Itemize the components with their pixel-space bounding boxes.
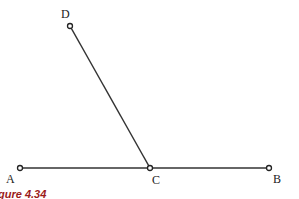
point-d-label: D — [61, 7, 70, 21]
point-c-marker — [148, 166, 153, 171]
point-a-label: A — [6, 172, 15, 186]
point-b-label: B — [273, 172, 281, 186]
segment-dc — [70, 26, 150, 168]
point-b-marker — [267, 166, 272, 171]
point-d-marker — [68, 24, 73, 29]
point-a-marker — [18, 166, 23, 171]
point-c-label: C — [152, 173, 160, 187]
geometry-figure: A B C D gure 4.34 — [0, 0, 299, 199]
figure-caption: gure 4.34 — [0, 188, 46, 199]
